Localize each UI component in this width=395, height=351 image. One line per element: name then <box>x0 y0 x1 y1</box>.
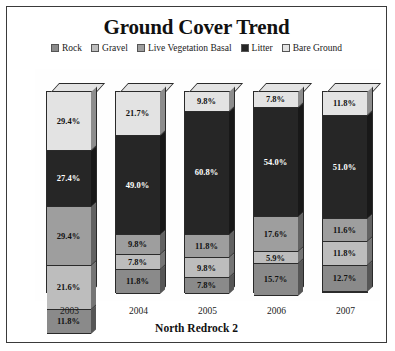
bar-segment[interactable]: 60.8% <box>185 112 229 235</box>
bar-stack[interactable]: 7.8%54.0%17.6%5.9%15.7% <box>253 91 299 293</box>
bar-segment-value-label: 12.7% <box>333 274 356 283</box>
bar-segment-value-label: 29.4% <box>57 232 80 241</box>
bar-segment[interactable]: 49.0% <box>116 136 160 235</box>
legend-swatch-icon <box>91 44 99 52</box>
bar-segment[interactable]: 21.6% <box>47 266 91 310</box>
chart-title: Ground Cover Trend <box>7 15 386 40</box>
bar-segment-value-label: 11.8% <box>333 249 356 258</box>
bar-side-face <box>229 87 235 292</box>
legend-item-bare-ground[interactable]: Bare Ground <box>282 43 342 53</box>
bar-segment-value-label: 27.4% <box>57 174 80 183</box>
bar-segment-value-label: 49.0% <box>126 181 149 190</box>
bar-segment[interactable]: 9.8% <box>116 235 160 255</box>
bar-side-segment <box>229 107 234 234</box>
bar-segment-value-label: 15.7% <box>264 275 287 284</box>
bar-segment[interactable]: 15.7% <box>254 264 298 296</box>
legend-item-rock[interactable]: Rock <box>51 43 82 53</box>
legend-swatch-icon <box>282 44 290 52</box>
bar-segment-value-label: 21.6% <box>57 283 80 292</box>
bar-side-segment <box>91 147 96 207</box>
bar-segment-value-label: 51.0% <box>333 163 356 172</box>
bar-side-segment <box>229 274 234 294</box>
bar-segment-value-label: 9.8% <box>197 97 216 106</box>
legend-swatch-icon <box>137 44 145 52</box>
bar-side-segment <box>160 131 165 234</box>
bar-side-face <box>298 87 304 292</box>
bar-segment[interactable]: 54.0% <box>254 108 298 217</box>
legend-item-litter[interactable]: Litter <box>241 43 273 53</box>
bar-side-face <box>91 87 97 292</box>
bar-group: 9.8%60.8%11.8%9.8%7.8% <box>184 91 236 293</box>
bar-segment-value-label: 54.0% <box>264 158 287 167</box>
bar-segment[interactable]: 11.8% <box>323 242 367 266</box>
bar-segment-value-label: 21.7% <box>126 109 149 118</box>
x-axis-tick-label: 2007 <box>320 306 372 316</box>
bar-segment[interactable]: 7.8% <box>116 255 160 271</box>
bar-segment[interactable]: 5.9% <box>254 252 298 264</box>
bar-segment-value-label: 7.8% <box>266 95 285 104</box>
legend-swatch-icon <box>241 44 249 52</box>
legend-item-label: Live Vegetation Basal <box>148 43 232 53</box>
bar-segment[interactable]: 17.6% <box>254 217 298 253</box>
bar-segment-value-label: 7.8% <box>128 258 147 267</box>
bar-segment-value-label: 11.8% <box>126 277 149 286</box>
bar-stack[interactable]: 29.4%27.4%29.4%21.6%11.8% <box>46 91 92 293</box>
bar-segment[interactable]: 9.8% <box>185 92 229 112</box>
bar-side-segment <box>160 87 165 135</box>
bar-segment-value-label: 17.6% <box>264 230 287 239</box>
bar-group: 29.4%27.4%29.4%21.6%11.8% <box>46 91 98 293</box>
bar-segment-value-label: 60.8% <box>195 168 218 177</box>
bar-segment[interactable]: 29.4% <box>47 92 91 151</box>
legend-swatch-icon <box>51 44 59 52</box>
bar-group: 11.8%51.0%11.6%11.8%12.7% <box>322 91 374 293</box>
bar-side-segment <box>91 262 96 310</box>
bar-segment[interactable]: 9.8% <box>185 258 229 278</box>
bar-side-face <box>367 87 373 292</box>
bar-segment[interactable]: 11.8% <box>323 92 367 116</box>
bar-segment[interactable]: 11.8% <box>185 235 229 259</box>
legend-item-label: Gravel <box>102 43 128 53</box>
chart-frame: Ground Cover Trend RockGravelLive Vegeta… <box>6 6 387 343</box>
x-axis-tick-labels: 20032004200520062007 <box>35 306 380 320</box>
bar-group: 7.8%54.0%17.6%5.9%15.7% <box>253 91 305 293</box>
bar-side-segment <box>91 87 96 151</box>
bar-segment[interactable]: 27.4% <box>47 151 91 206</box>
bar-segment[interactable]: 51.0% <box>323 116 367 219</box>
bar-segment-value-label: 5.9% <box>266 254 285 263</box>
bar-segment-value-label: 7.8% <box>197 281 216 290</box>
legend-item-live-vegetation-basal[interactable]: Live Vegetation Basal <box>137 43 232 53</box>
bar-segment[interactable]: 21.7% <box>116 92 160 136</box>
bar-segment[interactable]: 12.7% <box>323 266 367 292</box>
bar-segment-value-label: 11.6% <box>333 226 356 235</box>
x-axis-tick-label: 2004 <box>113 306 165 316</box>
bar-group: 21.7%49.0%9.8%7.8%11.8% <box>115 91 167 293</box>
bar-segment-value-label: 11.8% <box>333 99 356 108</box>
bar-stack[interactable]: 21.7%49.0%9.8%7.8%11.8% <box>115 91 161 293</box>
bar-segment-value-label: 11.8% <box>195 242 218 251</box>
bar-side-segment <box>367 262 372 292</box>
bar-segment[interactable]: 7.8% <box>254 92 298 108</box>
bar-segment[interactable]: 7.8% <box>185 278 229 294</box>
legend-item-label: Bare Ground <box>293 43 342 53</box>
bar-segment-value-label: 9.8% <box>197 264 216 273</box>
x-axis-title: North Redrock 2 <box>7 322 386 334</box>
bar-segment[interactable]: 11.6% <box>323 219 367 242</box>
legend-item-gravel[interactable]: Gravel <box>91 43 128 53</box>
plot-area: 29.4%27.4%29.4%21.6%11.8%21.7%49.0%9.8%7… <box>35 69 380 301</box>
bar-segment-value-label: 9.8% <box>128 240 147 249</box>
bar-segment[interactable]: 29.4% <box>47 207 91 266</box>
bar-series-container: 29.4%27.4%29.4%21.6%11.8%21.7%49.0%9.8%7… <box>35 69 380 301</box>
bar-stack[interactable]: 11.8%51.0%11.6%11.8%12.7% <box>322 91 368 293</box>
bar-side-segment <box>160 266 165 294</box>
x-axis-tick-label: 2003 <box>44 306 96 316</box>
x-axis-tick-label: 2006 <box>251 306 303 316</box>
chart-legend: RockGravelLive Vegetation BasalLitterBar… <box>7 43 386 53</box>
bar-side-segment <box>298 260 303 296</box>
bar-segment[interactable]: 11.8% <box>116 270 160 294</box>
bar-stack[interactable]: 9.8%60.8%11.8%9.8%7.8% <box>184 91 230 293</box>
x-axis-tick-label: 2005 <box>182 306 234 316</box>
legend-item-label: Rock <box>62 43 82 53</box>
bar-side-face <box>160 87 166 292</box>
bar-side-segment <box>367 111 372 219</box>
bar-side-segment <box>91 202 96 266</box>
